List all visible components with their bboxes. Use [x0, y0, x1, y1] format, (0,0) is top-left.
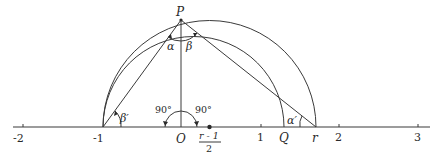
- label-90-right: 90°: [195, 104, 212, 115]
- label-center-numerator: r - 1: [199, 130, 219, 141]
- tick-label-2: 2: [335, 131, 342, 144]
- label-beta: β: [185, 40, 192, 53]
- label-alpha-prime: α′: [287, 114, 297, 127]
- label-Q: Q: [279, 131, 289, 145]
- label-O: O: [176, 132, 186, 146]
- tick-label-3: 3: [414, 131, 421, 144]
- angle-alpha-prime-arc: [300, 116, 302, 127]
- label-r: r: [312, 131, 319, 145]
- label-90-left: 90°: [155, 104, 172, 115]
- arrow-icon: [163, 121, 168, 126]
- tick-label-minus1: -1: [93, 132, 104, 145]
- diagram-canvas: P α β 90° 90° β′ α′ -2 -1 O r - 1 2 1 Q …: [0, 0, 440, 155]
- label-beta-prime: β′: [119, 112, 129, 125]
- label-alpha: α: [167, 40, 175, 53]
- arrow-icon: [194, 121, 199, 126]
- point-center: [207, 125, 211, 129]
- label-center-denominator: 2: [206, 143, 212, 154]
- tick-label-minus2: -2: [13, 132, 24, 145]
- diagram: P α β 90° 90° β′ α′ -2 -1 O r - 1 2 1 Q …: [0, 0, 440, 155]
- label-P: P: [175, 5, 185, 19]
- small-arc: [103, 37, 284, 128]
- tick-label-1: 1: [257, 131, 264, 144]
